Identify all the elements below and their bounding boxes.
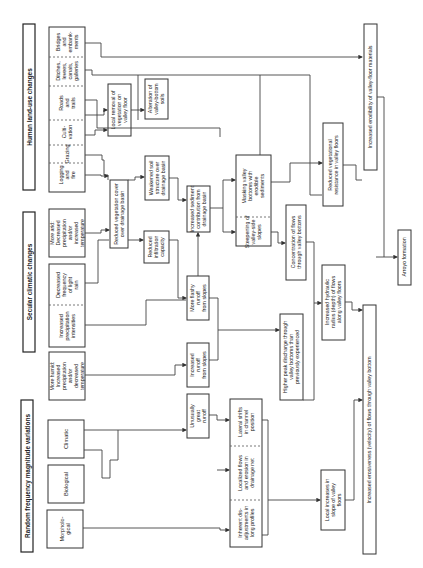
label-localized: Localized flowsand erosion indrainage ne… [237, 455, 255, 491]
secular-intensities-label: Increasedprecipitationintensities [58, 311, 76, 340]
svg-text:Secular climatic changes: Secular climatic changes [26, 243, 34, 320]
label-erosiveness: Increased erosiveness (velocity) of flow… [366, 356, 372, 504]
label-arroyo: Arroyo formation [401, 237, 407, 276]
label-reduced-resistance: Reduced vegetationalresistance in valley… [327, 135, 339, 195]
header-random-frequency: Random frequency magnitude variations [21, 400, 33, 552]
label-increased-sediment: Increased sedimentcontribution fromdrain… [189, 185, 207, 232]
arroyo-formation-flowchart: Human land-use changes Secular climatic … [0, 0, 423, 568]
random-biological-label: Biological [63, 472, 69, 496]
human-cause-label: Grazing [64, 145, 70, 164]
header-secular-climatic: Secular climatic changes [23, 212, 35, 352]
label-inherent: Inherent dis-adjustments inlong profiles [237, 506, 255, 540]
secular-drier-label: More arid:Decreasedprecipitationand/orin… [49, 219, 84, 247]
effect-labels: More arid:Decreasedprecipitationand/orin… [49, 45, 407, 541]
label-hydraulic-radius: Increased hydraulicradius (depth) of flo… [324, 276, 342, 328]
secular-humid-label: More humid:Increasedprecipitationand/ord… [49, 362, 84, 391]
svg-text:Human land-use changes: Human land-use changes [26, 68, 34, 146]
header-human-land-use: Human land-use changes [23, 24, 35, 190]
label-weakened-soil: Weakened soilstructure overdrainage basi… [148, 161, 166, 196]
svg-text:Random frequency magnitude var: Random frequency magnitude variations [24, 414, 32, 538]
random-climatic-label: Climatic [63, 429, 69, 449]
human-cause-label: Culti-vation [61, 125, 73, 139]
label-reduced-infiltration: Reducedinfiltrationcapacity [147, 236, 165, 259]
label-concentration: Concentration of flowsthrough valley bot… [290, 215, 302, 269]
human-cause-label: Ditches,levees,canals,galleries [55, 61, 79, 81]
label-reduced-veg-cover: Reduced vegetation coverover drainage ba… [113, 183, 125, 245]
label-erodibility: Increased erodibility of valley-floor ma… [367, 45, 373, 148]
